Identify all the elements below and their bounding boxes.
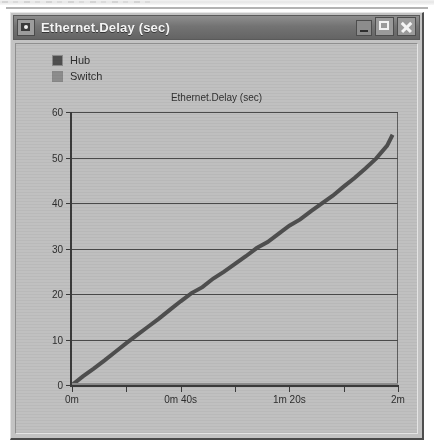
- x-axis-tick: [344, 385, 345, 392]
- legend-item-label: Hub: [70, 54, 90, 66]
- y-axis-label: 10: [52, 334, 63, 345]
- window-titlebar[interactable]: Ethernet.Delay (sec): [13, 15, 420, 40]
- gridline: [72, 112, 398, 113]
- series-line: [72, 135, 393, 385]
- chart-title: Ethernet.Delay (sec): [18, 92, 415, 103]
- legend-swatch: [52, 55, 63, 66]
- y-axis-tick: [66, 249, 72, 250]
- y-axis-tick: [66, 203, 72, 204]
- scan-artifact-rule: [6, 7, 428, 9]
- gridline: [72, 340, 398, 341]
- y-axis-tick: [66, 158, 72, 159]
- gridline: [72, 158, 398, 159]
- scan-artifact-ink: [2, 1, 152, 3]
- window-title: Ethernet.Delay (sec): [41, 20, 170, 35]
- x-axis-label: 0m 40s: [164, 394, 197, 405]
- chart-area: Ethernet.Delay (sec) 01020304050600m0m 4…: [18, 92, 415, 431]
- x-axis-tick: [398, 385, 399, 392]
- close-button[interactable]: [397, 17, 416, 36]
- gridline: [72, 294, 398, 295]
- x-axis-tick: [72, 385, 73, 392]
- x-axis-label: 2m: [391, 394, 405, 405]
- window-controls: [356, 17, 416, 36]
- window-menu-icon[interactable]: [17, 19, 35, 36]
- x-axis-label: 0m: [65, 394, 79, 405]
- maximize-button[interactable]: [375, 17, 394, 36]
- x-axis-tick: [235, 385, 236, 392]
- legend-item[interactable]: Switch: [52, 69, 102, 83]
- x-axis-tick: [126, 385, 127, 392]
- minimize-button[interactable]: [356, 20, 372, 36]
- chart-legend: HubSwitch: [52, 53, 102, 85]
- y-axis-label: 60: [52, 107, 63, 118]
- legend-item[interactable]: Hub: [52, 53, 102, 67]
- legend-item-label: Switch: [70, 70, 102, 82]
- plot-wrapper: 01020304050600m0m 40s1m 20s2m: [70, 112, 398, 387]
- y-axis-label: 30: [52, 243, 63, 254]
- window-client-area: HubSwitch Ethernet.Delay (sec) 010203040…: [15, 43, 418, 434]
- chart-window: Ethernet.Delay (sec) HubSwitch Ethernet.…: [10, 12, 424, 440]
- y-axis-tick: [66, 340, 72, 341]
- gridline: [72, 203, 398, 204]
- x-axis-label: 1m 20s: [273, 394, 306, 405]
- y-axis-label: 40: [52, 198, 63, 209]
- x-axis-tick: [181, 385, 182, 392]
- x-axis-tick: [289, 385, 290, 392]
- gridline: [72, 249, 398, 250]
- y-axis-tick: [66, 294, 72, 295]
- y-axis-label: 50: [52, 152, 63, 163]
- y-axis-label: 0: [57, 380, 63, 391]
- y-axis-label: 20: [52, 289, 63, 300]
- legend-swatch: [52, 71, 63, 82]
- plot-region[interactable]: 01020304050600m0m 40s1m 20s2m: [70, 112, 398, 387]
- scan-artifact-top: [0, 0, 434, 5]
- y-axis-tick: [66, 112, 72, 113]
